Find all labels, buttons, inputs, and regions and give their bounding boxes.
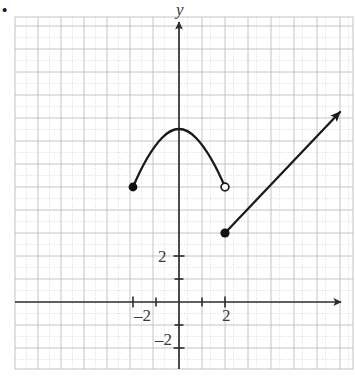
x-tick-label-pos2: 2 xyxy=(222,307,231,324)
graph-canvas xyxy=(0,0,355,376)
piecewise-function-graph: • y –2 2 2 –2 xyxy=(0,0,355,376)
problem-item-bullet: • xyxy=(2,3,7,18)
y-axis-label: y xyxy=(176,1,184,18)
x-tick-label-neg2: –2 xyxy=(134,307,151,324)
open-endpoint-parabola-right xyxy=(221,183,229,191)
y-tick-label-pos2: 2 xyxy=(158,248,167,265)
closed-endpoint-parabola-left xyxy=(129,183,138,192)
y-tick-label-neg2: –2 xyxy=(155,331,172,348)
closed-endpoint-ray-start xyxy=(220,228,229,237)
